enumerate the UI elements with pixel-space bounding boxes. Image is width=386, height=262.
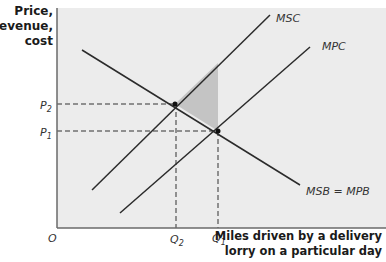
social-optimum-point [173, 102, 178, 107]
mpc-label: MPC [322, 40, 346, 53]
msb-label: MSB = MPB [306, 185, 370, 198]
msc-label: MSC [276, 12, 300, 25]
y-axis-label-line: revenue, [0, 19, 53, 34]
externality-diagram: MSC MPC MSB = MPB P2 P1 O Q2 Q1 [0, 0, 386, 262]
origin-label: O [48, 232, 57, 245]
y-axis-label-line: Price, [0, 4, 53, 19]
q2-label: Q2 [170, 233, 184, 248]
x-axis-label-line: Miles driven by a delivery [215, 229, 382, 244]
y-axis-label: Price, revenue, cost [0, 4, 53, 49]
p1-label: P1 [40, 126, 52, 141]
market-equilibrium-point [216, 129, 221, 134]
p2-label: P2 [40, 99, 52, 114]
x-axis-label: Miles driven by a delivery lorry on a pa… [215, 229, 382, 259]
x-axis-label-line: lorry on a particular day [215, 244, 382, 259]
y-axis-label-line: cost [0, 34, 53, 49]
